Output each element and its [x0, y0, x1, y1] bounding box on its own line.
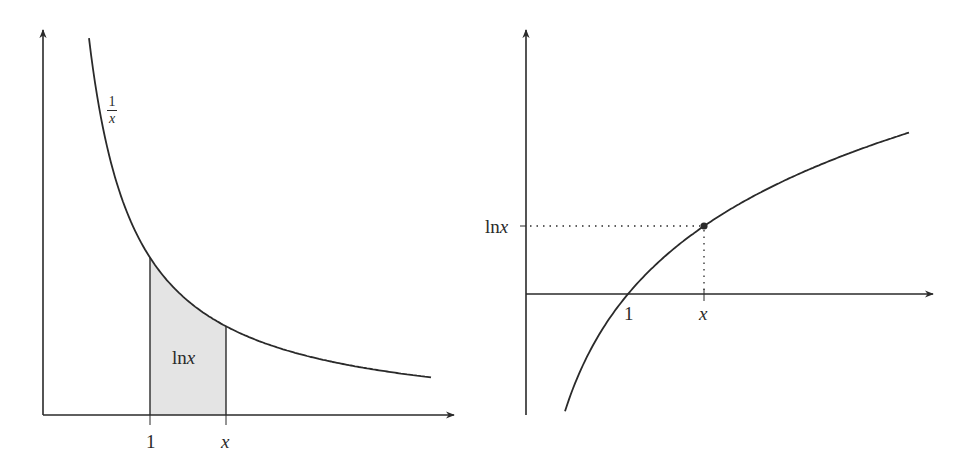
- curve-label-reciprocal: 1 x: [107, 95, 117, 126]
- fraction-numerator: 1: [109, 95, 116, 109]
- shaded-area-ln-x: [150, 258, 226, 415]
- left-plot: [43, 30, 454, 425]
- ln-var: x: [500, 216, 508, 237]
- marked-point: [700, 222, 707, 229]
- left-tick-label-1: 1: [146, 432, 156, 451]
- area-label-ln-x: lnx: [172, 348, 195, 367]
- figure-canvas: [0, 0, 962, 469]
- right-ytick-label-ln-x: lnx: [485, 217, 508, 236]
- log-curve: [565, 133, 909, 412]
- ln-prefix: ln: [485, 216, 500, 237]
- reciprocal-curve: [89, 38, 431, 377]
- left-tick-label-x: x: [221, 432, 229, 451]
- right-tick-label-1: 1: [624, 304, 634, 323]
- right-tick-label-x: x: [699, 304, 707, 323]
- fraction-denominator: x: [109, 112, 115, 126]
- ln-var: x: [187, 347, 195, 368]
- ln-prefix: ln: [172, 347, 187, 368]
- right-plot: [520, 30, 933, 415]
